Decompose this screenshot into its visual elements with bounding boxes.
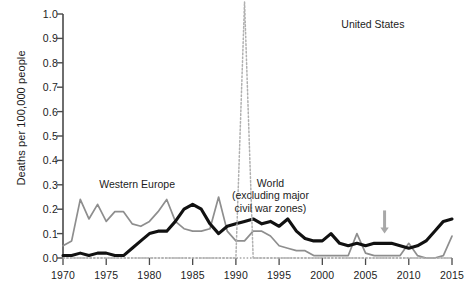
- x-tick-label: 1975: [94, 269, 118, 281]
- plot-svg: [0, 0, 472, 300]
- series-label-united-states: United States: [341, 18, 404, 31]
- x-axis-ticks: [63, 258, 452, 265]
- x-tick-label: 2005: [353, 269, 377, 281]
- series-label-world-heading: World: [215, 177, 325, 190]
- x-tick-label: 1990: [224, 269, 248, 281]
- series-paths: [63, 2, 452, 258]
- series-label-world-sub-2: civil war zones): [215, 202, 325, 215]
- series-label-world-sub-1: (excluding major: [215, 189, 325, 202]
- y-axis-ticks: [57, 14, 63, 258]
- series-label-western-europe: Western Europe: [99, 178, 175, 191]
- x-tick-label: 2010: [397, 269, 421, 281]
- x-tick-label: 2015: [440, 269, 464, 281]
- series-label-world: World (excluding major civil war zones): [215, 177, 325, 215]
- x-tick-label: 1995: [267, 269, 291, 281]
- x-tick-label: 1970: [51, 269, 75, 281]
- x-tick-label: 1980: [137, 269, 161, 281]
- chart-root: Deaths per 100,000 people 1.0 0.9 0.8 0.…: [0, 0, 472, 300]
- series-line: [63, 2, 452, 258]
- highlight-arrow-icon: [380, 210, 388, 233]
- x-tick-label: 2000: [310, 269, 334, 281]
- x-tick-label: 1985: [181, 269, 205, 281]
